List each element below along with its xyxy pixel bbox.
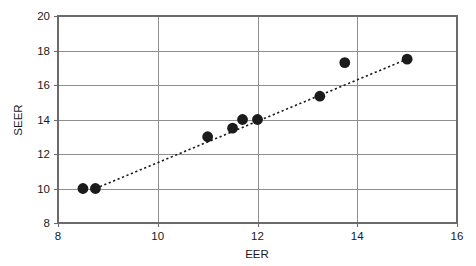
data-point (339, 57, 350, 68)
data-point (237, 114, 248, 125)
chart-svg: 8101214161820810121416 EER SEER (0, 0, 476, 266)
trend-line (95, 59, 407, 188)
data-point (314, 91, 325, 102)
x-tick-label: 12 (251, 230, 264, 242)
data-point (90, 183, 101, 194)
data-point (78, 183, 89, 194)
y-tick-label: 12 (37, 148, 50, 160)
axis-tick-labels: 8101214161820810121416 (37, 10, 463, 242)
y-tick-label: 8 (44, 217, 50, 229)
x-tick-label: 8 (55, 230, 61, 242)
y-tick-label: 18 (37, 45, 50, 57)
data-point (202, 131, 213, 142)
y-tick-label: 20 (37, 10, 50, 22)
x-tick-label: 14 (351, 230, 364, 242)
y-axis-title: SEER (12, 104, 24, 135)
data-point (402, 54, 413, 65)
data-point (227, 123, 238, 134)
y-tick-label: 14 (37, 114, 50, 126)
scatter-chart: 8101214161820810121416 EER SEER (0, 0, 476, 266)
data-points (78, 54, 413, 194)
y-tick-label: 16 (37, 79, 50, 91)
data-point (252, 114, 263, 125)
y-tick-label: 10 (37, 183, 50, 195)
x-tick-label: 16 (451, 230, 464, 242)
x-tick-label: 10 (151, 230, 164, 242)
x-axis-title: EER (245, 248, 269, 260)
